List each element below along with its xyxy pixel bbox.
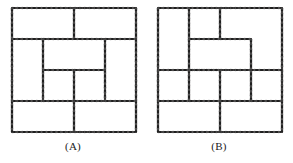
panel-b-drawing (146, 0, 292, 140)
panel-a-caption: (A) (65, 139, 81, 153)
figure-root: (A) (B) (0, 0, 293, 163)
panel-b: (B) (146, 0, 292, 163)
panel-b-caption: (B) (211, 139, 226, 153)
panel-b-canvas (146, 0, 292, 140)
panel-a: (A) (0, 0, 146, 163)
panel-a-drawing (0, 0, 146, 140)
panel-a-canvas (0, 0, 146, 140)
